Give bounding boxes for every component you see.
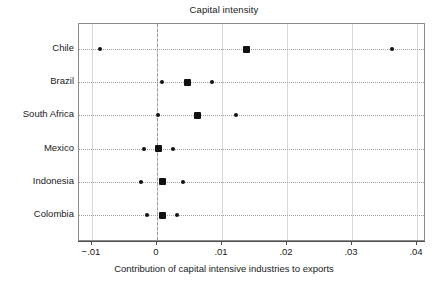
category-row: [79, 175, 424, 189]
x-axis-line: [78, 241, 425, 242]
x-tick: [416, 241, 417, 245]
upper-bound-marker: [181, 180, 185, 184]
point-estimate-marker: [243, 46, 250, 53]
plot-area: [78, 23, 425, 241]
category-row: [79, 108, 424, 122]
y-label-indonesia: Indonesia: [0, 176, 74, 186]
x-tick-label: 0: [136, 246, 176, 257]
point-estimate-marker: [194, 112, 201, 119]
upper-bound-marker: [171, 147, 175, 151]
row-dotted-line: [79, 49, 424, 50]
point-estimate-marker: [159, 212, 166, 219]
x-axis-title: Contribution of capital intensive indust…: [0, 263, 448, 274]
point-estimate-marker: [159, 178, 166, 185]
category-row: [79, 75, 424, 89]
lower-bound-marker: [160, 80, 164, 84]
lower-bound-marker: [98, 47, 102, 51]
x-tick-label: .04: [396, 246, 436, 257]
x-tick: [156, 241, 157, 245]
point-estimate-marker: [155, 145, 162, 152]
upper-bound-marker: [175, 213, 179, 217]
y-label-colombia: Colombia: [0, 209, 74, 219]
category-row: [79, 208, 424, 222]
y-label-brazil: Brazil: [0, 76, 74, 86]
x-tick-label: −.01: [71, 246, 111, 257]
x-tick: [351, 241, 352, 245]
row-dotted-line: [79, 215, 424, 216]
chart-title: Capital intensity: [0, 4, 448, 15]
row-dotted-line: [79, 115, 424, 116]
y-label-mexico: Mexico: [0, 143, 74, 153]
lower-bound-marker: [142, 147, 146, 151]
row-dotted-line: [79, 149, 424, 150]
row-dotted-line: [79, 182, 424, 183]
lower-bound-marker: [139, 180, 143, 184]
x-tick: [286, 241, 287, 245]
upper-bound-marker: [390, 47, 394, 51]
lower-bound-marker: [156, 113, 160, 117]
lower-bound-marker: [145, 213, 149, 217]
x-tick-label: .02: [266, 246, 306, 257]
y-label-chile: Chile: [0, 43, 74, 53]
x-tick: [91, 241, 92, 245]
x-tick-label: .03: [331, 246, 371, 257]
x-tick-label: .01: [201, 246, 241, 257]
category-row: [79, 42, 424, 56]
category-row: [79, 142, 424, 156]
point-estimate-marker: [184, 79, 191, 86]
upper-bound-marker: [210, 80, 214, 84]
y-label-south-africa: South Africa: [0, 109, 74, 119]
x-tick: [221, 241, 222, 245]
row-dotted-line: [79, 82, 424, 83]
chart-figure: Capital intensity ChileBrazilSouth Afric…: [0, 0, 448, 283]
upper-bound-marker: [234, 113, 238, 117]
